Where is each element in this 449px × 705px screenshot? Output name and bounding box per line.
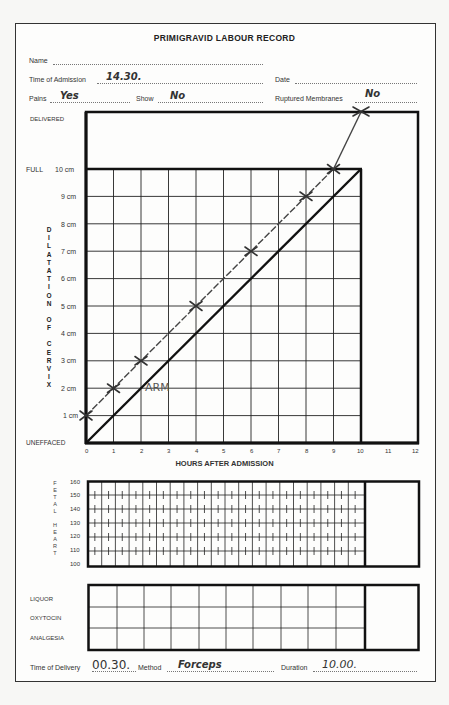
method-label: Method bbox=[138, 664, 161, 671]
duration-value: 10.00. bbox=[322, 658, 357, 671]
row-label-oxytocin: OXYTOCIN bbox=[30, 615, 61, 621]
row-label-liquor: LIQUOR bbox=[30, 596, 53, 602]
duration-field[interactable] bbox=[313, 671, 417, 672]
delivery-label: Time of Delivery bbox=[30, 664, 80, 671]
fetal-heart-chart bbox=[0, 0, 449, 705]
delivery-value: 00.30. bbox=[92, 658, 130, 672]
duration-label: Duration bbox=[281, 664, 307, 671]
row-label-analgesia: ANALGESIA bbox=[30, 635, 64, 641]
method-field[interactable] bbox=[167, 671, 274, 672]
method-value: Forceps bbox=[178, 659, 222, 670]
